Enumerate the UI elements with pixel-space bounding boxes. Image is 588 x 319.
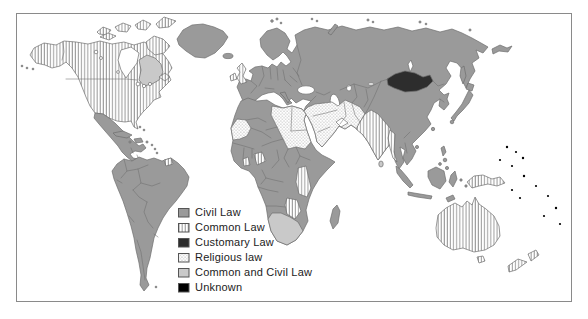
legend-label: Customary Law	[195, 235, 274, 250]
region-indonesia	[396, 166, 467, 202]
black-sea	[298, 86, 315, 94]
legend-label: Religious law	[195, 250, 262, 265]
legend-label: Civil Law	[195, 205, 241, 220]
legend-swatch-common-law	[178, 223, 190, 233]
region-uk-common-law	[237, 63, 247, 84]
lake	[100, 57, 103, 60]
legend-label: Unknown	[195, 280, 242, 295]
region-sri-lanka-common-and-civil	[379, 161, 383, 167]
hispaniola	[134, 138, 143, 143]
great-lake	[142, 84, 145, 87]
lake	[117, 71, 120, 74]
legal-systems-world-map-figure: Civil Law Common Law Customary Law Relig…	[0, 0, 588, 319]
region-australia-common-law	[436, 197, 500, 252]
legend-swatch-customary-law	[178, 238, 190, 248]
timor	[446, 195, 455, 202]
region-ireland-common-law	[230, 73, 237, 81]
legend-item: Common and Civil Law	[178, 265, 312, 280]
lake	[94, 50, 98, 54]
pacific-islands-unknown	[499, 146, 561, 225]
legend-swatch-civil-law	[178, 208, 190, 218]
greenland-civil-law	[177, 24, 228, 58]
legend-item: Customary Law	[178, 235, 312, 250]
new-zealand-north-island	[528, 250, 539, 261]
hainan	[415, 145, 418, 148]
legend-label: Common Law	[195, 220, 265, 235]
legend-item: Unknown	[178, 280, 312, 295]
lake-balkhash	[368, 83, 374, 85]
iceland	[223, 53, 233, 58]
tasmania	[477, 256, 485, 263]
legend: Civil Law Common Law Customary Law Relig…	[178, 205, 312, 295]
region-middle-east-religious-law	[303, 100, 365, 147]
new-zealand-south-island	[508, 259, 527, 272]
region-greenland	[177, 24, 233, 59]
falkland-islands	[155, 286, 157, 288]
java	[408, 192, 432, 199]
great-lake	[136, 82, 140, 86]
region-oceania	[436, 146, 561, 272]
aleutian-islands	[21, 65, 34, 70]
legend-item: Religious law	[178, 250, 312, 265]
legend-item: Common Law	[178, 220, 312, 235]
region-philippines	[439, 146, 449, 170]
honshu	[451, 90, 473, 121]
chukotka-tip	[492, 45, 512, 54]
region-north-america	[21, 17, 176, 129]
legend-swatch-common-and-civil-law	[178, 268, 190, 278]
great-lake	[148, 82, 151, 85]
sulawesi	[449, 171, 457, 187]
region-new-guinea-common-law	[467, 175, 505, 188]
region-madagascar-civil-law	[330, 205, 340, 229]
legend-swatch-religious-law	[178, 253, 190, 263]
taiwan	[431, 127, 434, 130]
legend-label: Common and Civil Law	[195, 265, 312, 280]
kyushu	[450, 120, 454, 124]
legend-item: Civil Law	[178, 205, 312, 220]
sumatra	[396, 166, 413, 188]
legend-swatch-unknown	[178, 283, 190, 293]
borneo	[428, 167, 446, 189]
